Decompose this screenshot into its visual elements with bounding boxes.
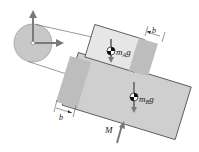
dimension-bottom-label: b [59,113,63,122]
pulley-center [31,41,35,45]
moment-arrow-icon [117,121,125,143]
moment-label: M [104,125,113,135]
block-b-center-of-mass-icon [130,93,138,101]
diagram-canvas: mAg mBg b b M [0,0,199,152]
dimension-top-label: b [152,26,156,35]
block-a-center-of-mass-icon [107,47,115,55]
